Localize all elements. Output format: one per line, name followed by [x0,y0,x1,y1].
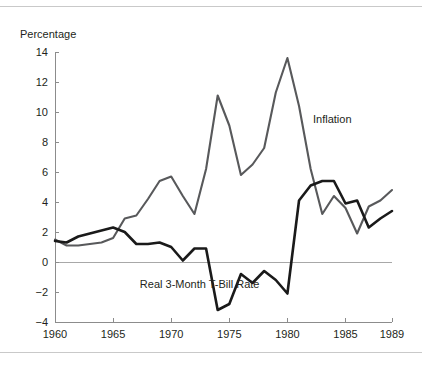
x-axis-tick-label: 1965 [101,328,125,340]
y-axis-title: Percentage [20,28,76,40]
series-label-real-tbill-rate: Real 3-Month T-Bill Rate [140,278,260,290]
x-axis-tick-label: 1970 [159,328,183,340]
y-axis-tick-label: 0 [42,256,48,268]
series-group [55,58,392,310]
y-axis-tick-label: 10 [36,106,48,118]
x-axis-tick-label: 1985 [333,328,357,340]
y-axis-title-group: Percentage [20,28,76,40]
y-axis-tick-label: 6 [42,166,48,178]
line-chart-plot: Percentage −4−202468101214 1960196519701… [0,0,422,365]
y-axis-tick-label: −2 [35,286,48,298]
x-axis-tick-label: 1989 [380,328,404,340]
y-axis-tick-label: 14 [36,46,48,58]
x-axis-ticks-group: 1960196519701975198019851989 [43,318,404,340]
x-axis-tick-label: 1960 [43,328,67,340]
chart-figure: Percentage −4−202468101214 1960196519701… [0,0,422,365]
series-line-inflation [55,58,392,246]
x-axis-tick-label: 1975 [217,328,241,340]
y-axis-tick-label: 8 [42,136,48,148]
y-axis-tick-label: 12 [36,76,48,88]
y-axis-tick-label: 4 [42,196,48,208]
series-label-inflation: Inflation [313,113,352,125]
series-line-real-tbill-rate [55,181,392,310]
x-axis-tick-label: 1980 [275,328,299,340]
y-axis-tick-label: −4 [35,316,48,328]
y-axis-tick-label: 2 [42,226,48,238]
